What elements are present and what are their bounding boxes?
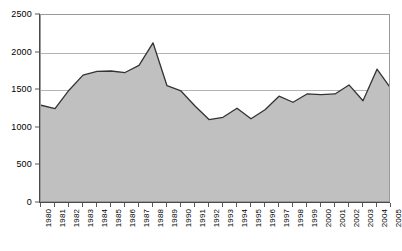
- x-tick-mark-2002: [348, 203, 349, 207]
- x-tick-mark-1991: [194, 203, 195, 207]
- x-tick-mark-1992: [208, 203, 209, 207]
- x-tick-mark-1983: [82, 203, 83, 207]
- x-tick-label-1981: 1981: [58, 209, 67, 227]
- x-tick-mark-1982: [68, 203, 69, 207]
- x-tick-mark-1988: [152, 203, 153, 207]
- x-tick-label-1983: 1983: [86, 209, 95, 227]
- y-tick-label-0: 0: [27, 197, 32, 207]
- x-tick-label-1993: 1993: [226, 209, 235, 227]
- x-tick-label-2000: 2000: [324, 209, 333, 227]
- x-tick-mark-1985: [110, 203, 111, 207]
- x-tick-mark-1997: [278, 203, 279, 207]
- x-tick-label-1992: 1992: [212, 209, 221, 227]
- x-tick-mark-1984: [96, 203, 97, 207]
- x-tick-label-1998: 1998: [296, 209, 305, 227]
- x-tick-mark-1998: [292, 203, 293, 207]
- x-tick-mark-1993: [222, 203, 223, 207]
- x-tick-label-1990: 1990: [184, 209, 193, 227]
- x-tick-mark-1989: [166, 203, 167, 207]
- area-fill-path: [41, 43, 390, 202]
- x-tick-label-1989: 1989: [170, 209, 179, 227]
- x-tick-label-1991: 1991: [198, 209, 207, 227]
- x-tick-mark-1980: [40, 203, 41, 207]
- plot-area: [40, 14, 390, 202]
- x-tick-mark-2000: [320, 203, 321, 207]
- y-tick-label-1000: 1000: [11, 122, 32, 132]
- y-tick-label-500: 500: [16, 159, 32, 169]
- x-tick-mark-2003: [362, 203, 363, 207]
- x-axis: 1980198119821983198419851986198719881989…: [40, 202, 390, 251]
- x-tick-mark-1981: [54, 203, 55, 207]
- x-tick-label-2004: 2004: [380, 209, 389, 227]
- x-tick-label-1985: 1985: [114, 209, 123, 227]
- x-tick-mark-1990: [180, 203, 181, 207]
- x-tick-label-1994: 1994: [240, 209, 249, 227]
- x-tick-label-1987: 1987: [142, 209, 151, 227]
- x-tick-label-1997: 1997: [282, 209, 291, 227]
- x-tick-label-1982: 1982: [72, 209, 81, 227]
- x-tick-mark-1996: [264, 203, 265, 207]
- y-tick-label-1500: 1500: [11, 84, 32, 94]
- x-tick-mark-2004: [376, 203, 377, 207]
- area-chart: 05001000150020002500 1980198119821983198…: [0, 0, 402, 251]
- y-axis: 05001000150020002500: [0, 0, 40, 251]
- x-tick-mark-1999: [306, 203, 307, 207]
- x-tick-mark-1986: [124, 203, 125, 207]
- x-tick-label-2003: 2003: [366, 209, 375, 227]
- x-tick-label-1999: 1999: [310, 209, 319, 227]
- x-tick-label-1988: 1988: [156, 209, 165, 227]
- series-area-path: [41, 15, 390, 202]
- x-tick-label-1996: 1996: [268, 209, 277, 227]
- x-tick-label-2001: 2001: [338, 209, 347, 227]
- y-tick-label-2500: 2500: [11, 9, 32, 19]
- x-tick-label-2005: 2005: [394, 209, 402, 227]
- x-tick-label-1984: 1984: [100, 209, 109, 227]
- y-tick-label-2000: 2000: [11, 47, 32, 57]
- x-tick-label-1995: 1995: [254, 209, 263, 227]
- x-tick-mark-1987: [138, 203, 139, 207]
- x-tick-label-2002: 2002: [352, 209, 361, 227]
- x-tick-mark-1994: [236, 203, 237, 207]
- x-tick-mark-2001: [334, 203, 335, 207]
- x-axis-line: [40, 202, 390, 203]
- x-tick-label-1980: 1980: [44, 209, 53, 227]
- x-tick-mark-2005: [390, 203, 391, 207]
- x-tick-mark-1995: [250, 203, 251, 207]
- x-tick-label-1986: 1986: [128, 209, 137, 227]
